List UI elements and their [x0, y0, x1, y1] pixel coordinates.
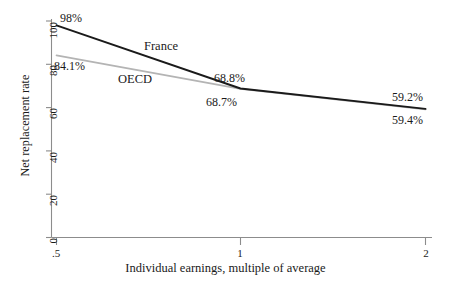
data-label-france-half: 98% [60, 11, 82, 26]
x-tick-label-one: 1 [220, 247, 260, 259]
series-line-france [57, 25, 426, 109]
x-axis-title: Individual earnings, multiple of average [0, 261, 451, 276]
data-label-oecd-two: 59.2% [392, 90, 423, 105]
data-label-oecd-one: 68.7% [206, 95, 237, 110]
y-tick-label-60: 60 [47, 108, 59, 148]
data-label-oecd-half: 84.1% [54, 59, 85, 74]
data-label-france-two: 59.4% [392, 113, 423, 128]
y-tick-label-20: 20 [47, 195, 59, 235]
y-tick-label-100: 100 [47, 22, 59, 62]
y-axis-title: Net replacement rate [18, 51, 33, 201]
series-label-france: France [144, 39, 178, 54]
chart-figure: Net replacement rate 0 20 40 60 80 100 .… [0, 0, 451, 290]
y-tick-label-40: 40 [47, 152, 59, 192]
x-tick-label-half: .5 [36, 247, 76, 259]
data-label-france-one: 68.8% [214, 71, 245, 86]
series-label-oecd: OECD [118, 72, 152, 87]
x-axis-ticks [57, 238, 426, 246]
x-tick-label-two: 2 [406, 247, 446, 259]
